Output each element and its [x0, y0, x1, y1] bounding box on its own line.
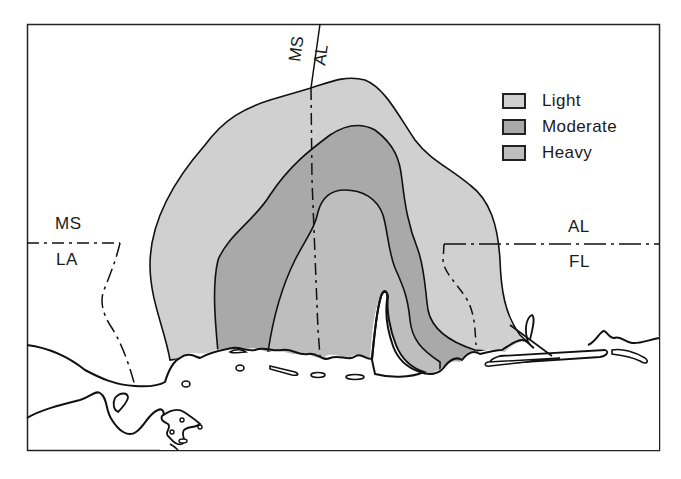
state-label-al-top: AL	[310, 43, 333, 66]
state-label-fl-right: FL	[569, 252, 590, 272]
marsh-islet-2	[170, 430, 174, 434]
marsh-islet-1	[198, 425, 202, 429]
map-legend: Light Moderate Heavy	[502, 88, 617, 166]
legend-item-heavy: Heavy	[502, 140, 617, 166]
legend-label: Light	[542, 91, 581, 111]
island-6	[346, 375, 364, 380]
legend-swatch-heavy	[502, 145, 526, 161]
state-label-la-left: LA	[56, 250, 78, 270]
legend-swatch-moderate	[502, 119, 526, 135]
island-8	[182, 381, 190, 387]
island-5	[311, 373, 325, 378]
island-7	[236, 365, 244, 371]
state-label-ms-top: MS	[285, 35, 308, 63]
marsh-islet-4	[179, 439, 187, 443]
state-label-al-right: AL	[568, 217, 590, 237]
legend-swatch-light	[502, 93, 526, 109]
marsh-islet-3	[180, 418, 184, 422]
legend-item-moderate: Moderate	[502, 114, 617, 140]
legend-label: Moderate	[542, 117, 617, 137]
legend-label: Heavy	[542, 143, 592, 163]
dauphin-spit	[230, 350, 246, 353]
map-canvas	[0, 0, 681, 479]
state-label-ms-left: MS	[55, 214, 82, 234]
legend-item-light: Light	[502, 88, 617, 114]
